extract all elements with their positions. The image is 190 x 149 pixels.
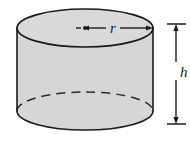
- cylinder-diagram-canvas: r h: [0, 0, 190, 149]
- height-top-arrowhead: [173, 24, 178, 31]
- height-bottom-arrowhead: [173, 117, 178, 124]
- radius-label: r: [110, 20, 116, 36]
- height-label: h: [180, 64, 188, 80]
- cylinder-figure: r h: [0, 0, 190, 149]
